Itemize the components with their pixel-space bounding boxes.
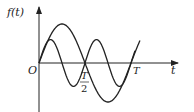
origin-label: O: [28, 64, 37, 77]
y-axis-label: f(t): [6, 6, 24, 19]
period-label: T: [133, 65, 141, 76]
half-period-denominator: 2: [81, 83, 87, 94]
waveform-diagram: f(t) t O T 2 T: [0, 0, 194, 112]
x-axis-label: t: [171, 64, 176, 77]
